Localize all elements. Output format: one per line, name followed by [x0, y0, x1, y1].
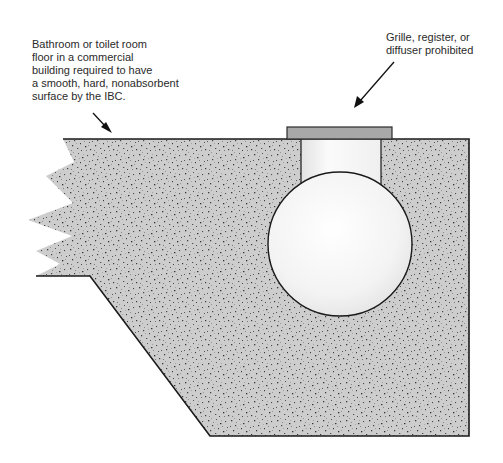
arrow-to-grille-icon	[354, 62, 394, 108]
round-duct	[268, 172, 412, 316]
floor-label-line: Bathroom or toilet room	[32, 38, 179, 51]
floor-label-line: surface by the IBC.	[32, 90, 179, 103]
concrete-slab	[28, 139, 469, 436]
grille-label-line: diffuser prohibited	[386, 44, 473, 57]
grille-label-line: Grille, register, or	[386, 31, 473, 44]
floor-label-line: floor in a commercial	[32, 51, 179, 64]
arrow-to-floor-icon	[93, 113, 112, 133]
grille-register-diffuser	[287, 127, 392, 139]
grille-prohibited-label: Grille, register, or diffuser prohibited	[386, 31, 473, 57]
floor-label-line: building required to have	[32, 64, 179, 77]
floor-label-line: a smooth, hard, nonabsorbent	[32, 77, 179, 90]
floor-requirement-label: Bathroom or toilet room floor in a comme…	[32, 38, 179, 103]
